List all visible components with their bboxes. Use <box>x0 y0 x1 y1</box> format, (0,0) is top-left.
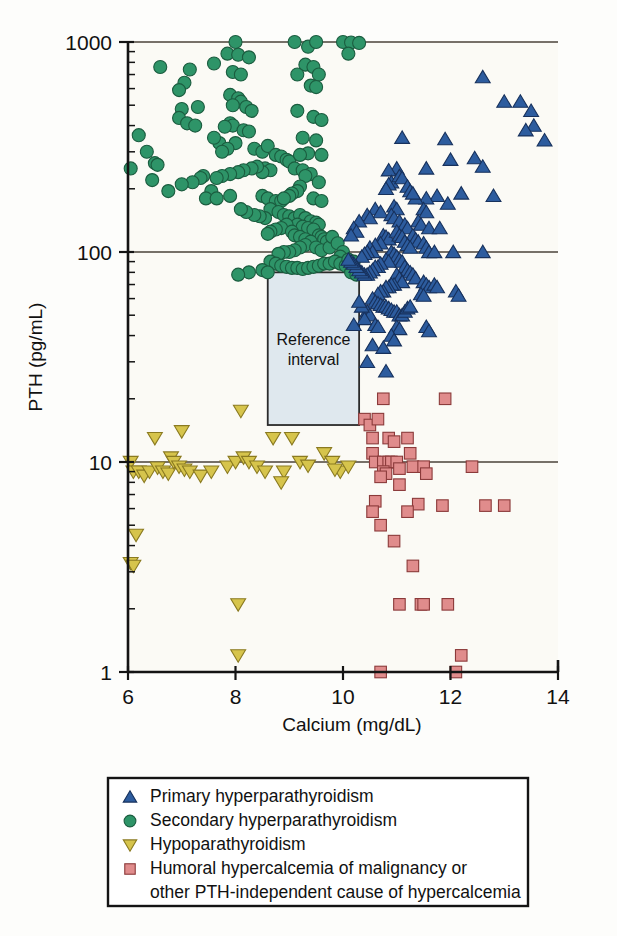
data-point <box>245 104 258 117</box>
data-point <box>367 432 379 444</box>
data-point <box>455 650 467 662</box>
data-point <box>367 506 379 518</box>
data-point <box>394 463 406 475</box>
data-point <box>140 145 153 158</box>
x-tick-label: 10 <box>331 685 354 708</box>
data-point <box>261 266 274 279</box>
data-point <box>375 519 387 531</box>
y-tick-label: 10 <box>89 451 112 474</box>
y-tick-label: 100 <box>77 241 112 264</box>
data-point <box>291 68 304 81</box>
x-tick-label: 14 <box>546 685 570 708</box>
data-point <box>312 176 325 189</box>
data-point <box>402 432 414 444</box>
data-point <box>310 134 323 147</box>
data-point <box>418 599 430 611</box>
data-point <box>388 535 400 547</box>
data-point <box>154 61 167 74</box>
data-point <box>229 35 242 48</box>
data-point <box>261 227 274 240</box>
x-tick-label: 12 <box>439 685 462 708</box>
data-point <box>242 51 255 64</box>
data-point <box>234 68 247 81</box>
y-axis-title: PTH (pg/mL) <box>25 303 46 412</box>
data-point <box>372 413 384 425</box>
y-tick-label: 1 <box>100 661 112 684</box>
legend-label: Secondary hyperparathyroidism <box>150 810 397 830</box>
data-point <box>315 114 328 127</box>
data-point <box>466 461 478 473</box>
data-point <box>162 185 175 198</box>
legend-label-continued: other PTH-independent cause of hypercalc… <box>150 882 521 902</box>
data-point <box>498 500 510 512</box>
data-point <box>210 192 223 205</box>
data-point <box>378 393 390 405</box>
scatter-plot-figure: 110100100068101214 Reference interval Ca… <box>0 0 617 936</box>
data-point <box>375 471 387 483</box>
data-point <box>191 101 204 114</box>
data-point <box>394 479 406 491</box>
data-point <box>369 496 381 508</box>
data-point <box>226 99 239 112</box>
data-point <box>291 104 304 117</box>
y-tick-label: 1000 <box>65 31 112 54</box>
data-point <box>288 35 301 48</box>
data-point <box>124 162 137 175</box>
data-point <box>342 47 355 60</box>
x-axis-title: Calcium (mg/dL) <box>282 714 421 735</box>
data-point <box>407 461 419 473</box>
data-point <box>404 448 416 460</box>
x-tick-label: 6 <box>122 685 134 708</box>
data-point <box>310 81 323 94</box>
reference-interval-label-line1: Reference <box>277 331 351 348</box>
data-point <box>175 178 188 191</box>
data-point <box>207 57 220 70</box>
legend-label: Primary hyperparathyroidism <box>150 786 374 806</box>
data-point <box>216 145 229 158</box>
data-point <box>310 35 323 48</box>
data-point <box>242 125 255 138</box>
x-tick-label: 8 <box>230 685 242 708</box>
data-point <box>480 500 492 512</box>
data-point <box>353 36 366 49</box>
legend-marker-square <box>125 864 135 874</box>
legend-marker-circle <box>124 815 136 827</box>
data-point <box>132 129 145 142</box>
data-point <box>439 393 451 405</box>
data-point <box>394 599 406 611</box>
legend-label: Hypoparathyroidism <box>150 834 306 854</box>
data-point <box>146 174 159 187</box>
data-point <box>388 436 400 448</box>
data-point <box>232 268 245 281</box>
legend: Primary hyperparathyroidismSecondary hyp… <box>108 778 528 906</box>
data-point <box>296 131 309 144</box>
reference-interval-rect <box>268 272 359 425</box>
data-point <box>234 203 247 216</box>
data-point <box>151 158 164 171</box>
data-point <box>183 63 196 76</box>
reference-interval-box <box>268 272 359 425</box>
data-point <box>315 148 328 161</box>
data-point <box>210 172 223 185</box>
data-point <box>224 189 237 202</box>
data-point <box>437 500 449 512</box>
data-point <box>412 498 424 510</box>
data-point <box>442 599 454 611</box>
data-point <box>277 192 290 205</box>
data-point <box>315 194 328 207</box>
reference-interval-label-line2: interval <box>288 351 340 368</box>
data-point <box>402 506 414 518</box>
data-point <box>189 119 202 132</box>
legend-label: Humoral hypercalcemia of malignancy or <box>150 858 467 878</box>
data-point <box>293 148 306 161</box>
figure-container: 110100100068101214 Reference interval Ca… <box>0 0 617 936</box>
data-point <box>218 120 231 133</box>
data-point <box>312 68 325 81</box>
data-point <box>173 84 186 97</box>
data-point <box>207 131 220 144</box>
data-point <box>421 468 433 480</box>
data-point <box>407 560 419 572</box>
